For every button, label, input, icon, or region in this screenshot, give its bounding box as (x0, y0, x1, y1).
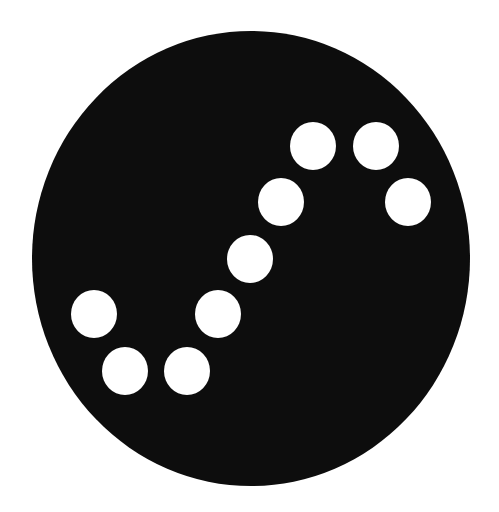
white-dot (164, 347, 210, 395)
white-dot (102, 347, 148, 395)
white-dot (258, 178, 304, 226)
white-dot (353, 122, 399, 170)
white-dot (227, 235, 273, 283)
white-dot (290, 122, 336, 170)
white-dot (385, 178, 431, 226)
logo-graphic (0, 0, 499, 512)
white-dot (71, 290, 117, 338)
white-dot (195, 290, 241, 338)
